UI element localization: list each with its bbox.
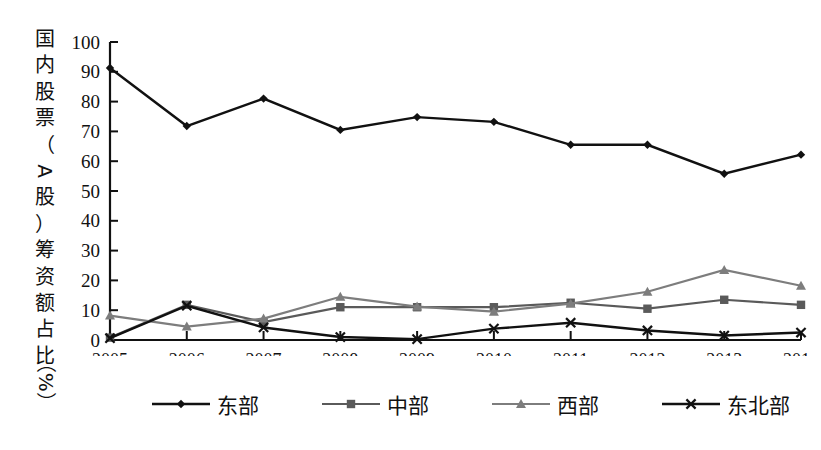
x-tick-label: 2013 — [706, 350, 742, 356]
y-tick-label: 40 — [81, 210, 100, 231]
chart-figure: 国内股票（A股）筹资额占比（%） 01020304050607080901002… — [0, 0, 821, 450]
x-tick-label: 2006 — [169, 350, 205, 356]
legend-item-西部[interactable]: 西部 — [490, 389, 599, 419]
legend-item-中部[interactable]: 中部 — [320, 389, 429, 419]
y-tick-label: 0 — [91, 330, 101, 351]
y-axis-title-char: 票 — [35, 105, 55, 131]
legend-item-东北部[interactable]: 东北部 — [660, 389, 790, 419]
y-tick-label: 80 — [81, 91, 100, 112]
x-tick-label: 2007 — [246, 350, 282, 356]
x-tick-label: 2012 — [629, 350, 665, 356]
y-tick-label: 30 — [81, 240, 100, 261]
y-axis-title-char: 额 — [35, 290, 55, 316]
legend-label: 东部 — [217, 389, 259, 419]
y-axis-title-char: 资 — [35, 264, 55, 290]
y-axis-title-char: 筹 — [35, 237, 55, 263]
y-tick-label: 10 — [81, 300, 100, 321]
y-axis-title-char: 内 — [35, 52, 55, 78]
legend-swatch-triangle-icon — [490, 395, 552, 413]
legend-swatch-cross-icon — [660, 395, 722, 413]
y-axis-title-char: 股 — [35, 184, 55, 210]
y-axis-title-char: 国 — [35, 26, 55, 52]
legend-item-东部[interactable]: 东部 — [150, 389, 259, 419]
y-axis-title-char: A — [32, 164, 58, 178]
y-axis-title-char: 占 — [35, 316, 55, 342]
legend-swatch-diamond-icon — [150, 395, 212, 413]
x-tick-label: 2014 — [783, 350, 813, 356]
x-tick-label: 2011 — [553, 350, 588, 356]
y-axis-title-char: ） — [35, 211, 55, 237]
chart-legend: 东部中部西部东北部 — [150, 386, 790, 422]
x-tick-label: 2010 — [476, 350, 512, 356]
line-chart-svg: 0102030405060708090100200520062007200820… — [68, 26, 813, 356]
y-tick-label: 20 — [81, 270, 100, 291]
y-axis-title: 国内股票（A股）筹资额占比（%） — [22, 26, 68, 394]
y-axis-title-char: 股 — [35, 79, 55, 105]
y-axis-title-char: （%） — [32, 353, 58, 412]
y-tick-label: 90 — [81, 61, 100, 82]
legend-label: 中部 — [387, 389, 429, 419]
series-西部 — [105, 265, 806, 331]
y-tick-label: 100 — [72, 32, 101, 53]
legend-label: 东北部 — [727, 389, 790, 419]
plot-area: 0102030405060708090100200520062007200820… — [68, 26, 813, 356]
y-axis-title-char: （ — [35, 132, 55, 158]
y-tick-label: 60 — [81, 151, 100, 172]
x-tick-label: 2009 — [399, 350, 435, 356]
series-东部 — [106, 64, 805, 178]
y-tick-label: 70 — [81, 121, 100, 142]
legend-swatch-square-icon — [320, 395, 382, 413]
x-tick-label: 2008 — [322, 350, 358, 356]
axes — [110, 42, 801, 340]
x-tick-label: 2005 — [92, 350, 128, 356]
y-tick-label: 50 — [81, 181, 100, 202]
legend-label: 西部 — [557, 389, 599, 419]
